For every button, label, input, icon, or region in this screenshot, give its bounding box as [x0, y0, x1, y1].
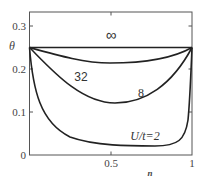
x-tick-label: 0.5	[104, 157, 118, 169]
y-tick-label: 0	[21, 149, 27, 161]
curve-32	[30, 48, 193, 64]
label-32: 32	[74, 70, 88, 84]
y-tick-label: 0.3	[12, 20, 26, 32]
x-axis-label: n	[147, 168, 152, 177]
label-2: U/t=2	[130, 129, 159, 143]
label-inf: ∞	[106, 26, 117, 43]
x-tick-label: 1	[189, 157, 195, 169]
label-8: 8	[138, 86, 144, 100]
chart: 0.3 0.2 0.1 0 0.5 1 θ n ∞ 32 8 U/t=2	[0, 0, 201, 177]
y-tick-label: 0.2	[12, 63, 26, 75]
curve-8	[30, 48, 193, 104]
curves	[30, 48, 193, 147]
y-tick-label: 0.1	[12, 106, 26, 118]
y-axis-label: θ	[9, 39, 15, 53]
